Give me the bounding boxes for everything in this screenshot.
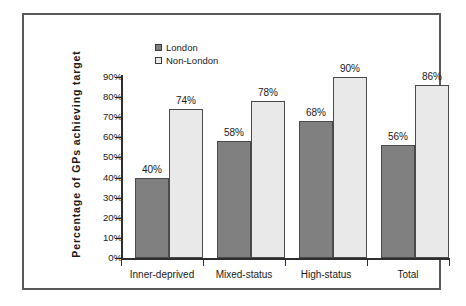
y-axis-tick-label: 20% bbox=[86, 212, 122, 223]
legend-label-non-london: Non-London bbox=[166, 55, 218, 66]
y-axis-tick-label-wrap: 50% bbox=[75, 157, 122, 158]
bar-value-label: 90% bbox=[327, 63, 373, 74]
bar-non-london-mixed-status[interactable] bbox=[251, 101, 285, 258]
bar-non-london-high-status[interactable] bbox=[333, 77, 367, 258]
x-axis-category-label: Mixed-status bbox=[203, 269, 285, 280]
y-axis-tick-label: 10% bbox=[86, 232, 122, 243]
y-axis-tick-label: 60% bbox=[86, 131, 122, 142]
y-axis-tick-label-wrap: 20% bbox=[75, 218, 122, 219]
y-axis-tick-label-wrap: 60% bbox=[75, 137, 122, 138]
bar-london-total[interactable] bbox=[381, 145, 415, 258]
x-axis-category-label: High-status bbox=[285, 269, 367, 280]
legend-label-london: London bbox=[166, 42, 198, 53]
y-axis-tick-label-wrap: 80% bbox=[75, 97, 122, 98]
y-axis-title: Percentage of GPs achieving target bbox=[70, 39, 82, 269]
x-axis-tick bbox=[285, 260, 286, 266]
legend-swatch-non-london-icon bbox=[155, 57, 162, 64]
y-axis-tick-label: 70% bbox=[86, 111, 122, 122]
y-axis-tick-label: 80% bbox=[86, 91, 122, 102]
y-axis-tick-label-wrap: 0% bbox=[75, 258, 122, 259]
legend-item-non-london[interactable]: Non-London bbox=[155, 55, 218, 66]
y-axis-tick-label-wrap: 70% bbox=[75, 117, 122, 118]
bar-london-inner-deprived[interactable] bbox=[135, 178, 169, 258]
legend-item-london[interactable]: London bbox=[155, 42, 218, 53]
bar-value-label: 86% bbox=[409, 71, 455, 82]
y-axis-tick-label: 40% bbox=[86, 172, 122, 183]
y-axis-tick-label: 0% bbox=[86, 252, 122, 263]
y-axis-tick-label: 30% bbox=[86, 192, 122, 203]
chart-frame-border: Percentage of GPs achieving target Londo… bbox=[22, 13, 441, 290]
bar-non-london-inner-deprived[interactable] bbox=[169, 109, 203, 258]
x-axis-tick bbox=[203, 260, 204, 266]
x-axis-category-label: Inner-deprived bbox=[121, 269, 203, 280]
y-axis-tick-label-wrap: 10% bbox=[75, 238, 122, 239]
chart-legend: London Non-London bbox=[155, 42, 218, 66]
y-axis-tick-label-wrap: 40% bbox=[75, 178, 122, 179]
x-axis-tick bbox=[367, 260, 368, 266]
x-axis-tick bbox=[121, 260, 122, 266]
y-axis-tick-label: 90% bbox=[86, 71, 122, 82]
x-axis-category-label: Total bbox=[367, 269, 449, 280]
bar-value-label: 74% bbox=[163, 95, 209, 106]
legend-swatch-london-icon bbox=[155, 44, 162, 51]
bar-london-high-status[interactable] bbox=[299, 121, 333, 258]
y-axis-tick-label: 50% bbox=[86, 151, 122, 162]
x-axis-tick bbox=[449, 260, 450, 266]
y-axis-tick-label-wrap: 30% bbox=[75, 198, 122, 199]
y-axis-tick-label-wrap: 90% bbox=[75, 77, 122, 78]
bar-non-london-total[interactable] bbox=[415, 85, 449, 258]
bar-london-mixed-status[interactable] bbox=[217, 141, 251, 258]
chart-screenshot: Percentage of GPs achieving target Londo… bbox=[0, 0, 466, 306]
bar-value-label: 78% bbox=[245, 87, 291, 98]
